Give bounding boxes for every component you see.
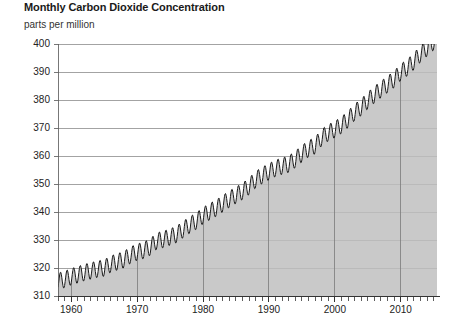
axis-ticks xyxy=(0,0,451,326)
co2-chart-figure: Monthly Carbon Dioxide Concentration par… xyxy=(0,0,451,326)
